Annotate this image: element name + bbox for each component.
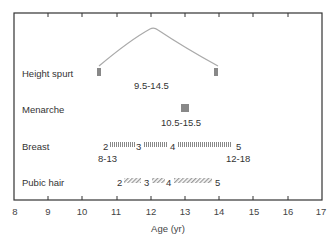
row-label-breast: Breast [22, 141, 50, 152]
svg-text:16: 16 [283, 206, 294, 217]
x-tick-labels: 8 9 10 11 12 13 14 15 16 17 [12, 206, 326, 217]
svg-text:13: 13 [180, 206, 191, 217]
row-label-height-spurt: Height spurt [22, 68, 74, 79]
bottom-ticks [48, 196, 288, 200]
breast-bar-4-5 [177, 142, 232, 147]
svg-text:14: 14 [214, 206, 225, 217]
svg-text:11: 11 [111, 206, 121, 217]
breast-stage-4: 4 [170, 141, 175, 152]
height-spurt-end-marker [214, 68, 218, 76]
pubic-stage-3: 3 [144, 177, 149, 188]
pubic-stage-2: 2 [117, 177, 122, 188]
svg-text:8: 8 [12, 206, 17, 217]
breast-end-range: 12-18 [226, 153, 250, 164]
menarche-marker [181, 104, 189, 112]
pubic-stage-5: 5 [215, 177, 220, 188]
breast-bar-2-3 [110, 142, 136, 147]
breast-bar-3-4 [143, 142, 167, 147]
svg-text:10: 10 [77, 206, 88, 217]
svg-text:17: 17 [316, 206, 327, 217]
pubic-bar-3-4 [152, 178, 165, 183]
breast-stage-3: 3 [136, 141, 141, 152]
height-spurt-curve [99, 28, 218, 66]
svg-text:15: 15 [249, 206, 260, 217]
height-spurt-start-marker [97, 68, 101, 76]
row-label-pubic-hair: Pubic hair [22, 177, 64, 188]
breast-start-range: 8-13 [98, 153, 117, 164]
breast-stage-5: 5 [236, 141, 241, 152]
svg-text:12: 12 [146, 206, 157, 217]
breast-stage-2: 2 [103, 141, 108, 152]
pubic-stage-4: 4 [166, 177, 171, 188]
pubic-bar-2-3 [124, 178, 141, 183]
height-spurt-range: 9.5-14.5 [134, 80, 169, 91]
svg-text:9: 9 [45, 206, 50, 217]
pubic-bar-4-5 [174, 178, 212, 183]
puberty-timeline-chart: 8 9 10 11 12 13 14 15 16 17 Age (yr) Hei… [0, 0, 333, 243]
menarche-range: 10.5-15.5 [161, 117, 201, 128]
x-axis-label: Age (yr) [151, 223, 185, 234]
row-label-menarche: Menarche [22, 104, 64, 115]
